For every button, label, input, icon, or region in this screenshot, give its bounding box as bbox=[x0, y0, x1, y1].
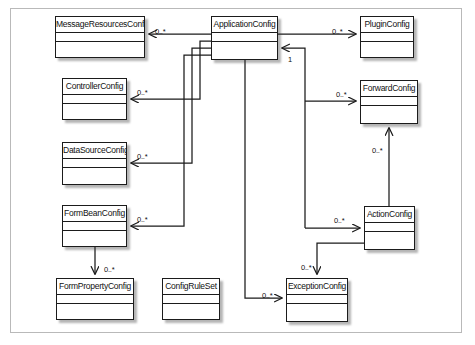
multiplicity-appcfg-datasource: 0..* bbox=[137, 152, 147, 161]
class-box-controller-config[interactable]: ControllerConfig bbox=[62, 78, 127, 120]
class-attributes-compartment bbox=[365, 223, 414, 232]
class-operations-compartment bbox=[56, 42, 144, 82]
edge-appcfg-exception bbox=[245, 60, 282, 298]
class-name-forward-config: ForwardConfig bbox=[361, 81, 417, 97]
class-attributes-compartment bbox=[361, 33, 413, 42]
class-operations-compartment bbox=[163, 304, 219, 344]
class-box-forward-config[interactable]: ForwardConfig bbox=[360, 80, 418, 124]
multiplicity-formbean-formproperty: 0..* bbox=[104, 265, 114, 274]
class-attributes-compartment bbox=[63, 159, 126, 168]
class-operations-compartment bbox=[63, 104, 126, 144]
class-name-plugin-config: PluginConfig bbox=[361, 17, 413, 33]
class-box-message-resources-config[interactable]: MessageResourcesConfig bbox=[55, 16, 145, 58]
class-operations-compartment bbox=[361, 106, 417, 148]
class-name-action-config: ActionConfig bbox=[365, 207, 414, 223]
class-attributes-compartment bbox=[361, 97, 417, 106]
class-box-config-rule-set[interactable]: ConfigRuleSet bbox=[162, 278, 220, 320]
class-operations-compartment bbox=[365, 232, 414, 274]
multiplicity-action-appcfg: 1 bbox=[288, 55, 292, 64]
multiplicity-appcfg-controller: 0..* bbox=[137, 88, 147, 97]
class-attributes-compartment bbox=[287, 295, 347, 304]
class-attributes-compartment bbox=[63, 95, 126, 104]
class-box-exception-config[interactable]: ExceptionConfig bbox=[286, 278, 348, 322]
multiplicity-appcfg-action: 0..* bbox=[334, 216, 344, 225]
class-name-message-resources-config: MessageResourcesConfig bbox=[56, 17, 144, 33]
multiplicity-appcfg-formbean: 0..* bbox=[137, 215, 147, 224]
class-box-plugin-config[interactable]: PluginConfig bbox=[360, 16, 414, 58]
class-box-form-property-config[interactable]: FormPropertyConfig bbox=[56, 278, 134, 320]
class-operations-compartment bbox=[63, 231, 126, 271]
class-box-action-config[interactable]: ActionConfig bbox=[364, 206, 415, 250]
class-attributes-compartment bbox=[212, 33, 277, 42]
class-operations-compartment bbox=[212, 42, 277, 84]
multiplicity-action-exception: 0..* bbox=[301, 263, 311, 272]
multiplicity-action-forward: 0..* bbox=[372, 146, 382, 155]
class-name-exception-config: ExceptionConfig bbox=[287, 279, 347, 295]
class-name-data-source-config: DataSourceConfig bbox=[63, 143, 126, 159]
class-box-data-source-config[interactable]: DataSourceConfig bbox=[62, 142, 127, 185]
class-name-form-property-config: FormPropertyConfig bbox=[57, 279, 133, 295]
class-attributes-compartment bbox=[63, 222, 126, 231]
uml-class-diagram: MessageResourcesConfig ApplicationConfig… bbox=[0, 0, 475, 345]
multiplicity-appcfg-plugin: 0..* bbox=[332, 27, 342, 36]
edge-action-exception bbox=[317, 243, 364, 274]
class-attributes-compartment bbox=[163, 295, 219, 304]
edge-action-appcfg bbox=[282, 48, 305, 228]
class-attributes-compartment bbox=[56, 33, 144, 42]
multiplicity-appcfg-forward: 0..* bbox=[336, 90, 346, 99]
class-name-config-rule-set: ConfigRuleSet bbox=[163, 279, 219, 295]
class-operations-compartment bbox=[57, 304, 133, 344]
class-attributes-compartment bbox=[57, 295, 133, 304]
class-box-form-bean-config[interactable]: FormBeanConfig bbox=[62, 205, 127, 247]
class-operations-compartment bbox=[287, 304, 347, 345]
class-name-controller-config: ControllerConfig bbox=[63, 79, 126, 95]
class-name-form-bean-config: FormBeanConfig bbox=[63, 206, 126, 222]
class-box-application-config[interactable]: ApplicationConfig bbox=[211, 16, 278, 60]
multiplicity-appcfg-exception: 0..* bbox=[262, 291, 272, 300]
multiplicity-appcfg-messageresources: 0..* bbox=[155, 27, 165, 36]
class-operations-compartment bbox=[63, 168, 126, 209]
class-operations-compartment bbox=[361, 42, 413, 82]
class-name-application-config: ApplicationConfig bbox=[212, 17, 277, 33]
